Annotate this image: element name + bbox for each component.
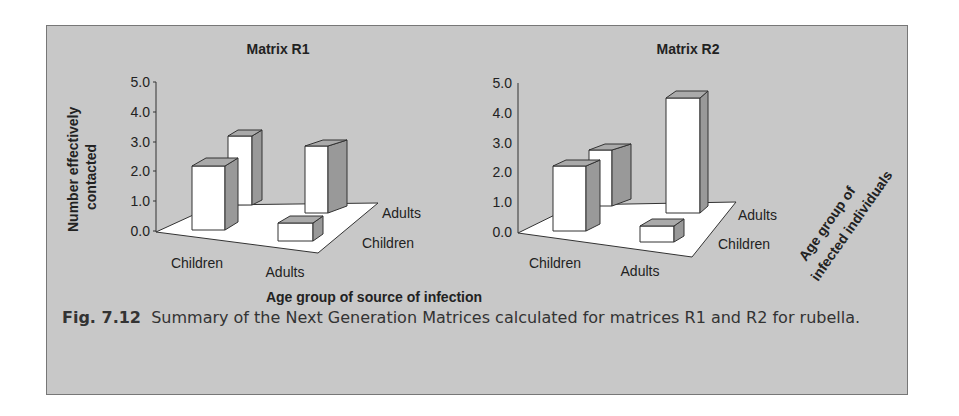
- bar-r2-children-children: [553, 160, 600, 231]
- y-axis-label-2: contacted: [83, 144, 99, 210]
- caption-text: Summary of the Next Generation Matrices …: [151, 308, 860, 327]
- svg-text:5.0: 5.0: [131, 74, 151, 90]
- figure-charts: Matrix R1 5.0 4.0 3.0 2.0 1.0 0.0: [0, 0, 959, 416]
- chart-r1-yticks: 5.0 4.0 3.0 2.0 1.0 0.0: [131, 74, 151, 239]
- svg-text:4.0: 4.0: [131, 104, 151, 120]
- chart-r2: Matrix R2 5.0 4.0 3.0 2.0 1.0 0.0: [493, 41, 896, 284]
- chart-r1-title: Matrix R1: [246, 41, 309, 57]
- y-axis-label: Number effectively: [65, 107, 81, 232]
- svg-text:1.0: 1.0: [493, 194, 513, 210]
- svg-text:3.0: 3.0: [493, 135, 513, 151]
- x-label-children-r2: Children: [529, 255, 581, 271]
- x-label-children: Children: [171, 255, 223, 271]
- z-label-children-r2: Children: [718, 236, 770, 252]
- bar-r2-adults-adults: [666, 91, 708, 213]
- x-label-adults-r2: Adults: [621, 263, 660, 279]
- z-label-adults-r2: Adults: [738, 207, 777, 223]
- svg-text:1.0: 1.0: [131, 193, 151, 209]
- bar-r1-children-adults: [278, 216, 323, 241]
- svg-text:0.0: 0.0: [493, 224, 513, 240]
- figure-caption: Fig. 7.12 Summary of the Next Generation…: [62, 307, 882, 329]
- svg-text:2.0: 2.0: [131, 163, 151, 179]
- chart-r2-yticks: 5.0 4.0 3.0 2.0 1.0 0.0: [493, 75, 513, 240]
- svg-text:0.0: 0.0: [131, 223, 151, 239]
- x-label-adults: Adults: [266, 264, 305, 280]
- svg-text:5.0: 5.0: [493, 75, 513, 91]
- svg-text:4.0: 4.0: [493, 105, 513, 121]
- bar-r2-children-adults: [640, 219, 684, 242]
- svg-text:3.0: 3.0: [131, 134, 151, 150]
- x-axis-label: Age group of source of infection: [266, 289, 482, 305]
- z-label-adults: Adults: [382, 205, 421, 221]
- z-label-children: Children: [362, 235, 414, 251]
- chart-r1: Matrix R1 5.0 4.0 3.0 2.0 1.0 0.0: [65, 41, 421, 280]
- svg-text:2.0: 2.0: [493, 164, 513, 180]
- caption-label: Fig. 7.12: [62, 308, 141, 327]
- bar-r1-adults-adults: [305, 140, 347, 213]
- chart-r2-title: Matrix R2: [656, 41, 719, 57]
- bar-r1-children-children: [192, 158, 238, 230]
